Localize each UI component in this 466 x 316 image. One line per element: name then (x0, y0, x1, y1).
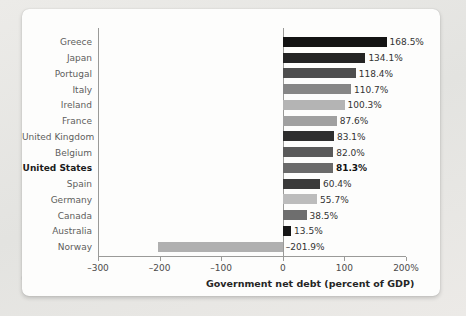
x-axis-tick-label: –100 (196, 263, 246, 273)
x-axis-tick (344, 257, 345, 261)
bar-value-label: 38.5% (310, 211, 339, 221)
x-axis-title: Government net debt (percent of GDP) (206, 278, 406, 289)
bar (283, 226, 291, 236)
x-axis-tick-label: 0 (258, 263, 308, 273)
category-label: United Kingdom (22, 132, 92, 142)
bar-value-label: 118.4% (359, 69, 393, 79)
bar-value-label: 100.3% (348, 100, 382, 110)
x-axis-line (98, 256, 406, 257)
bar-value-label: 60.4% (323, 179, 352, 189)
plot-left-border (98, 28, 99, 256)
bar-chart-plot: Government net debt (percent of GDP) –30… (22, 9, 440, 296)
category-label: United States (22, 163, 92, 173)
x-axis-tick-label: –200 (135, 263, 185, 273)
bar-value-label: 110.7% (354, 85, 388, 95)
x-axis-tick (406, 257, 407, 261)
category-label: Canada (22, 211, 92, 221)
category-label: Spain (22, 179, 92, 189)
bar-value-label: 83.1% (337, 132, 366, 142)
category-label: Italy (22, 85, 92, 95)
category-label: Portugal (22, 69, 92, 79)
bar (283, 210, 307, 220)
bar (283, 179, 320, 189)
category-label: Ireland (22, 100, 92, 110)
bar-value-label: –201.9% (286, 242, 325, 252)
bar-value-label: 134.1% (368, 53, 402, 63)
x-axis-tick (98, 257, 99, 261)
category-label: Greece (22, 37, 92, 47)
bar (283, 53, 366, 63)
bar (283, 100, 345, 110)
bar-value-label: 13.5% (294, 226, 323, 236)
x-axis-tick (160, 257, 161, 261)
bar (283, 163, 333, 173)
category-label: Australia (22, 226, 92, 236)
x-axis-tick (283, 257, 284, 261)
bar (158, 242, 282, 252)
bar (283, 131, 334, 141)
x-axis-tick-label: 100 (319, 263, 369, 273)
x-axis-tick-label: –300 (73, 263, 123, 273)
bar-value-label: 87.6% (340, 116, 369, 126)
bar (283, 147, 334, 157)
category-label: Norway (22, 242, 92, 252)
category-label: Germany (22, 195, 92, 205)
bar (283, 37, 387, 47)
bar-value-label: 168.5% (390, 37, 424, 47)
category-label: Belgium (22, 148, 92, 158)
category-label: France (22, 116, 92, 126)
bar (283, 68, 356, 78)
x-axis-tick-label: 200% (381, 263, 431, 273)
bar-value-label: 55.7% (320, 195, 349, 205)
category-label: Japan (22, 53, 92, 63)
bar (283, 116, 337, 126)
bar (283, 194, 317, 204)
bar-value-label: 82.0% (336, 148, 365, 158)
bar-value-label: 81.3% (336, 163, 367, 173)
x-axis-tick (221, 257, 222, 261)
bar (283, 84, 351, 94)
chart-card: Government net debt (percent of GDP) –30… (22, 9, 440, 296)
